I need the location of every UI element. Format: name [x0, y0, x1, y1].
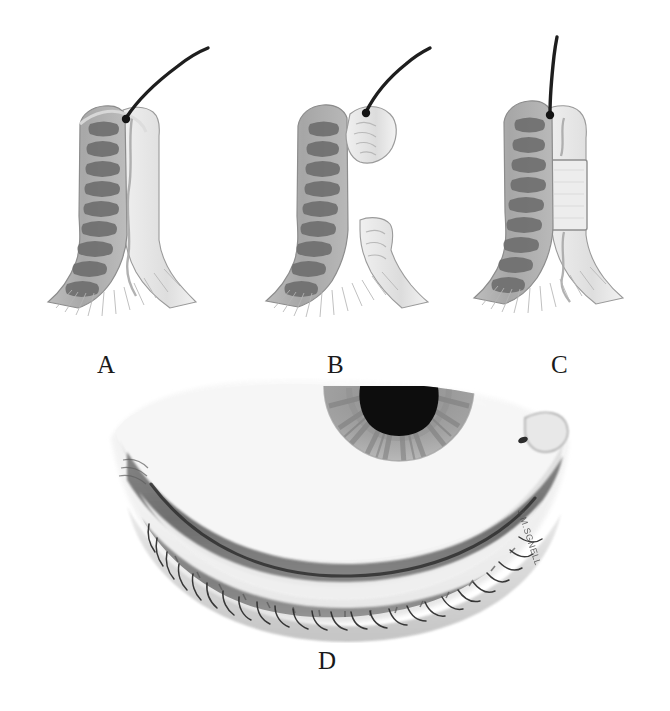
anatomy-figure-plate: A: [0, 0, 670, 711]
panel-b-follicle-icon: [362, 109, 370, 117]
panel-c-interpositional-graft: [551, 160, 587, 230]
panel-a-follicle-icon: [122, 115, 130, 123]
panel-c-follicle-icon: [546, 111, 554, 119]
panel-c-cilium-icon: [550, 37, 557, 114]
panel-b-cilium-icon: [366, 48, 430, 112]
panel-b-label: B: [327, 352, 344, 377]
panel-b-eyelid-cross-section-excised-segment: [240, 40, 450, 340]
panel-d-everted-lower-eyelid: [105, 378, 575, 643]
panel-d-label: D: [318, 648, 337, 673]
panel-a-label: A: [97, 352, 116, 377]
panel-a-posterior-lamella: [123, 107, 196, 308]
panel-c-label: C: [551, 352, 568, 377]
panel-b-excised-margin-fragment: [346, 107, 396, 164]
panel-c-eyelid-cross-section-with-graft: [450, 30, 660, 340]
panel-a-normal-eyelid-cross-section: [20, 40, 230, 340]
